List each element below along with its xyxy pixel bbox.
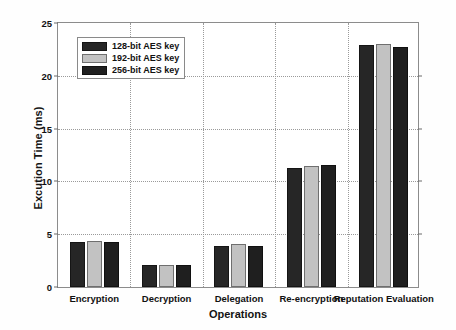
y-tick-label: 15 [41,123,52,134]
x-tick-label: Reputation Evaluation [334,293,434,304]
legend-swatch-128-icon [82,42,107,51]
bar-group-bars [275,23,347,287]
y-tick-label: 20 [41,70,52,81]
y-tick-label: 10 [41,176,52,187]
legend-swatch-192-icon [82,54,107,63]
x-tick-label: Delegation [215,293,264,304]
x-tick-label: Encryption [69,293,119,304]
bar [87,241,102,287]
bar [214,246,229,287]
bar [304,166,319,287]
bar-group-bars [203,23,275,287]
x-tick-label: Decryption [142,293,192,304]
chart-legend: 128-bit AES key 192-bit AES key 256-bit … [77,37,185,79]
y-tick-label: 25 [41,18,52,29]
bar [231,244,246,287]
bar [376,44,391,287]
legend-swatch-256-icon [82,66,107,75]
legend-label-192: 192-bit AES key [112,53,179,63]
bar-group: Delegation [203,23,275,287]
bar [393,47,408,287]
bar [359,45,374,287]
bar [176,265,191,287]
legend-label-128: 128-bit AES key [112,41,179,51]
bar-group-bars [348,23,420,287]
y-axis-title: Excution Time (ms) [32,58,44,258]
bar [248,246,263,287]
bar-group: Reputation Evaluation [348,23,420,287]
bar [104,242,119,287]
bar-chart-figure: Excution Time (ms) 0510152025EncryptionD… [0,0,456,330]
bar-group: Re-encryption [275,23,347,287]
x-axis-title: Operations [57,308,419,320]
y-tick-label: 5 [47,229,52,240]
legend-item: 256-bit AES key [82,65,179,75]
legend-item: 192-bit AES key [82,53,179,63]
bar [159,265,174,287]
bar [70,242,85,287]
bar [287,168,302,287]
bar [142,265,157,287]
bar [321,165,336,287]
y-tick-label: 0 [47,282,52,293]
legend-item: 128-bit AES key [82,41,179,51]
legend-label-256: 256-bit AES key [112,65,179,75]
